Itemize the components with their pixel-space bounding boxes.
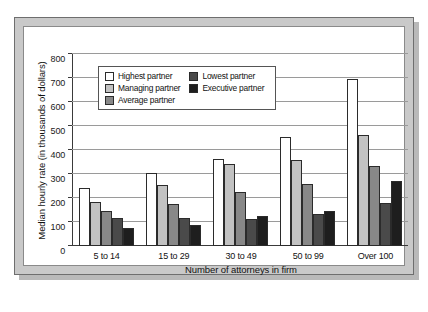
x-tick-label: 15 to 29 [140, 251, 207, 261]
legend-label: Average partner [118, 95, 175, 105]
y-tick-mark [68, 221, 72, 222]
legend-swatch [105, 96, 114, 105]
legend-swatch [189, 72, 198, 81]
chart-legend: Highest partnerManaging partnerAverage p… [98, 66, 276, 110]
bar [391, 181, 402, 246]
plot-wrapper: Median hourly rate (in thousands of doll… [24, 27, 404, 265]
chart-inner-panel: Median hourly rate (in thousands of doll… [23, 26, 405, 266]
bar [257, 216, 268, 246]
bar [79, 188, 90, 246]
legend-column-left: Highest partnerManaging partnerAverage p… [105, 71, 180, 105]
bar [280, 137, 291, 246]
bar [235, 192, 246, 246]
legend-column-right: Lowest partnerExecutive partner [189, 71, 264, 105]
y-tick-mark [68, 245, 72, 246]
bar [224, 164, 235, 246]
bar [246, 219, 257, 246]
chart-outer-frame: Median hourly rate (in thousands of doll… [14, 17, 414, 275]
bar [146, 173, 157, 246]
y-axis-title: Median hourly rate (in thousands of doll… [34, 54, 48, 246]
y-tick-mark [68, 77, 72, 78]
bar [313, 214, 324, 246]
legend-label: Lowest partner [202, 71, 255, 81]
x-tick-label: 50 to 99 [275, 251, 342, 261]
bar [358, 135, 369, 246]
bar [302, 184, 313, 246]
bar [380, 203, 391, 246]
x-tick-label: 30 to 49 [207, 251, 274, 261]
bar [190, 225, 201, 246]
legend-label: Highest partner [118, 71, 172, 81]
y-tick-mark [68, 125, 72, 126]
bar [291, 160, 302, 246]
bar [324, 211, 335, 246]
bar [157, 185, 168, 246]
bar [369, 166, 380, 246]
bar-group [274, 54, 341, 246]
y-tick-mark [68, 173, 72, 174]
bar-group [341, 54, 408, 246]
x-tick-label: 5 to 14 [73, 251, 140, 261]
bar [123, 228, 134, 246]
bar [112, 218, 123, 246]
bar [213, 159, 224, 246]
legend-item: Lowest partner [189, 71, 264, 81]
bar [179, 218, 190, 246]
y-tick-mark [68, 149, 72, 150]
legend-swatch [189, 84, 198, 93]
legend-item: Average partner [105, 95, 180, 105]
y-axis-title-text: Median hourly rate (in thousands of doll… [36, 61, 47, 239]
bar [101, 211, 112, 246]
legend-item: Highest partner [105, 71, 180, 81]
y-tick-mark [68, 101, 72, 102]
bar [168, 204, 179, 246]
legend-label: Managing partner [118, 83, 180, 93]
bar [90, 202, 101, 246]
x-axis-title: Number of attorneys in firm [73, 264, 409, 275]
legend-swatch [105, 72, 114, 81]
x-tick-label: Over 100 [342, 251, 409, 261]
legend-label: Executive partner [202, 83, 264, 93]
legend-item: Managing partner [105, 83, 180, 93]
x-tick-labels: 5 to 1415 to 2930 to 4950 to 99Over 100 [73, 251, 409, 261]
legend-item: Executive partner [189, 83, 264, 93]
bar [347, 79, 358, 246]
y-tick-mark [68, 197, 72, 198]
figure-root: Median hourly rate (in thousands of doll… [0, 0, 428, 312]
legend-swatch [105, 84, 114, 93]
y-tick-mark [68, 53, 72, 54]
